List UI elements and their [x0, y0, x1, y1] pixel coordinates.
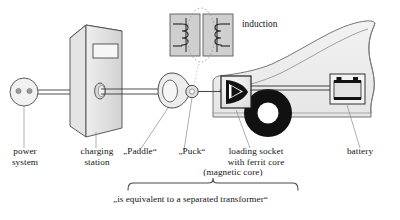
caption-equivalent-transformer: „is equivalent to a separated transforme…	[113, 194, 268, 204]
transformer-secondary	[203, 14, 233, 56]
label-paddle: „Paddle“	[112, 146, 168, 157]
ev-inductive-charging-diagram	[0, 0, 400, 220]
label-magnetic-core: (magnetic core)	[168, 167, 298, 178]
label-puck: „Puck“	[168, 146, 216, 157]
cable-outlet-to-station	[38, 90, 70, 94]
label-power-system: power system	[0, 146, 50, 167]
loading-socket	[221, 76, 251, 108]
equivalence-brace	[128, 178, 298, 190]
transformer-primary	[170, 14, 200, 56]
power-outlet	[10, 78, 38, 106]
battery	[330, 74, 365, 104]
charging-station	[70, 25, 122, 137]
diagram-canvas: power system charging station „Paddle“ „…	[0, 0, 400, 220]
puck	[186, 85, 198, 97]
label-loading-socket: loading socket with ferrit core	[216, 146, 296, 167]
induction-link	[194, 62, 200, 86]
label-induction: induction	[242, 19, 277, 29]
label-battery: battery	[332, 146, 388, 157]
